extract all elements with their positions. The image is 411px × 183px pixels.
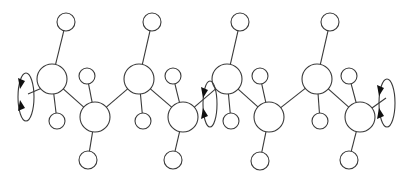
backbone-atom bbox=[345, 102, 375, 132]
side-bond bbox=[262, 84, 266, 103]
side-bond bbox=[142, 31, 150, 65]
side-bond bbox=[56, 31, 64, 65]
side-atom bbox=[251, 152, 269, 170]
side-bond bbox=[175, 84, 180, 103]
side-atom bbox=[252, 68, 268, 84]
backbone-bond bbox=[328, 89, 349, 107]
side-bond bbox=[228, 94, 230, 113]
arrowhead-up-icon bbox=[377, 108, 384, 119]
backbone-atom bbox=[124, 64, 154, 94]
polymer-chain-diagram bbox=[0, 0, 411, 183]
side-bond bbox=[320, 31, 328, 65]
side-bond bbox=[262, 132, 266, 152]
backbone-bond bbox=[63, 89, 84, 107]
side-bond bbox=[351, 84, 356, 103]
backbone-bond bbox=[281, 88, 305, 107]
rotation-ellipse bbox=[379, 79, 395, 127]
arrowhead-down-icon bbox=[377, 85, 384, 96]
side-atom bbox=[312, 113, 328, 129]
side-bond bbox=[89, 132, 92, 151]
backbone-atom bbox=[212, 64, 242, 94]
loop-middle bbox=[201, 81, 217, 127]
side-atom bbox=[135, 113, 151, 129]
backbone-bond bbox=[238, 89, 258, 107]
arrowhead-up-icon bbox=[18, 100, 25, 111]
side-bond bbox=[175, 132, 180, 152]
side-atom bbox=[231, 13, 249, 31]
side-atom bbox=[143, 13, 161, 31]
arrowhead-up-icon bbox=[201, 108, 208, 119]
backbone-bond bbox=[150, 89, 171, 107]
loop-left bbox=[18, 73, 34, 121]
side-atom bbox=[49, 113, 65, 129]
side-atom bbox=[321, 13, 339, 31]
backbone-bond bbox=[106, 89, 127, 107]
side-bond bbox=[351, 132, 356, 152]
terminal-bond bbox=[28, 88, 42, 94]
side-bond bbox=[89, 84, 93, 102]
side-atom bbox=[340, 151, 358, 169]
rotation-loops-group bbox=[18, 73, 395, 127]
side-bond bbox=[140, 94, 142, 113]
backbone-atom bbox=[37, 64, 67, 94]
backbone-atom bbox=[80, 102, 110, 132]
side-atom bbox=[164, 151, 182, 169]
side-atom bbox=[341, 68, 357, 84]
side-atom bbox=[165, 68, 181, 84]
side-atom bbox=[223, 113, 239, 129]
diagram-canvas bbox=[0, 0, 411, 183]
side-bond bbox=[54, 94, 56, 113]
rotation-ellipse bbox=[203, 81, 217, 127]
side-bond bbox=[230, 31, 238, 65]
backbone-atom bbox=[254, 102, 284, 132]
side-atom bbox=[57, 13, 75, 31]
side-atom bbox=[79, 151, 97, 169]
side-atom bbox=[79, 68, 95, 84]
backbone-atom bbox=[302, 64, 332, 94]
backbone-atom bbox=[168, 102, 198, 132]
side-bond bbox=[318, 94, 319, 113]
